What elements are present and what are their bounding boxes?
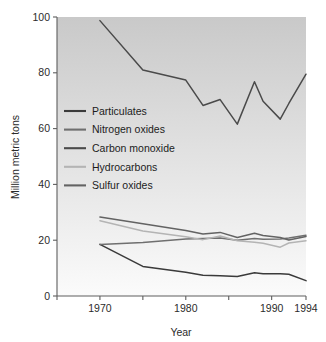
legend-label-carbon-monoxide: Carbon monoxide: [92, 142, 175, 154]
chart-canvas: 020406080100 1970198019901994 Particulat…: [0, 0, 326, 342]
x-axis-title: Year: [170, 326, 192, 338]
emissions-line-chart: 020406080100 1970198019901994 Particulat…: [0, 0, 326, 342]
legend-label-nitrogen-oxides: Nitrogen oxides: [92, 123, 165, 135]
legend-label-particulates: Particulates: [92, 105, 147, 117]
x-tick-label: 1994: [294, 302, 318, 314]
y-axis-ticks: 020406080100: [32, 11, 57, 302]
y-tick-label: 20: [38, 234, 50, 246]
y-tick-label: 40: [38, 178, 50, 190]
plot-background: [57, 17, 306, 296]
y-tick-label: 100: [32, 11, 50, 23]
y-tick-label: 60: [38, 122, 50, 134]
legend-label-sulfur-oxides: Sulfur oxides: [92, 179, 153, 191]
y-axis-title: Million metric tons: [9, 115, 21, 199]
x-tick-label: 1970: [88, 302, 112, 314]
y-tick-label: 80: [38, 66, 50, 78]
x-tick-label: 1980: [174, 302, 198, 314]
x-axis-ticks: 1970198019901994: [57, 296, 318, 314]
y-tick-label: 0: [44, 290, 50, 302]
legend-label-hydrocarbons: Hydrocarbons: [92, 161, 157, 173]
x-tick-label: 1990: [260, 302, 284, 314]
